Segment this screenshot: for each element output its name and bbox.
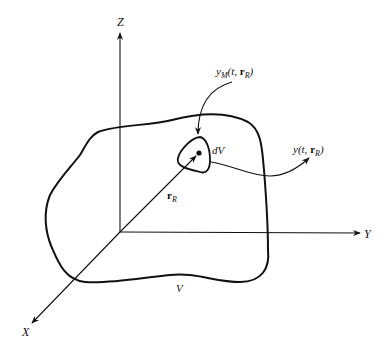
- element-label: dV: [212, 145, 224, 156]
- output-term-args-close: ): [320, 143, 324, 155]
- output-term-args-open: (t,: [298, 143, 310, 155]
- diagram-canvas: [0, 0, 391, 355]
- position-vector-subscript: R: [172, 195, 177, 204]
- z-axis-label: Z: [117, 16, 124, 28]
- source-term-subscript: M: [221, 71, 228, 80]
- position-vector-label: rR: [167, 190, 177, 204]
- volume-label: V: [176, 283, 183, 294]
- x-axis-label: X: [22, 326, 29, 338]
- output-term-label: y(t, rR): [293, 144, 324, 158]
- y-axis-label: Y: [364, 228, 371, 240]
- volume-element-boundary: [178, 137, 210, 173]
- volume-boundary: [46, 114, 269, 282]
- output-arrow: [211, 158, 309, 176]
- source-term-label: yM(t, rR): [216, 66, 253, 80]
- source-term-args-open: (t,: [228, 65, 240, 77]
- source-term-args-close: ): [250, 65, 254, 77]
- x-axis: [32, 232, 120, 323]
- source-arrow: [198, 82, 232, 134]
- y-axis: [120, 232, 360, 233]
- volume-element-point: [196, 150, 201, 155]
- position-vector: [120, 156, 196, 232]
